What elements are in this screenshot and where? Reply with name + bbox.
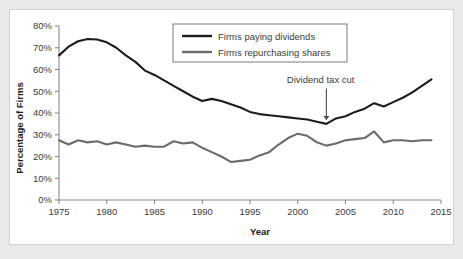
annotation-label: Dividend tax cut	[287, 74, 355, 85]
chart-figure-card: 0%10%20%30%40%50%60%70%80% 1975198019851…	[9, 9, 454, 245]
x-axis-title: Year	[250, 226, 270, 237]
x-axis-tick-label: 2010	[383, 206, 404, 217]
x-axis-tick-label: 1985	[144, 206, 165, 217]
y-axis-title: Percentage of Firms	[14, 82, 25, 173]
x-axis-tick-label: 1980	[96, 206, 117, 217]
x-axis: 197519801985199019952000200520102015	[48, 200, 451, 217]
x-axis-tick-label: 1990	[192, 206, 213, 217]
legend-label: Firms repurchasing shares	[218, 47, 331, 58]
x-axis-tick-label: 2000	[287, 206, 308, 217]
y-axis-tick-label: 80%	[33, 20, 53, 31]
x-axis-tick-label: 2015	[430, 206, 451, 217]
x-axis-tick-label: 2005	[335, 206, 356, 217]
down-arrow-icon	[323, 116, 329, 120]
screenshot-root: 0%10%20%30%40%50%60%70%80% 1975198019851…	[0, 0, 463, 259]
y-axis-tick-label: 40%	[33, 107, 53, 118]
y-axis-tick-label: 20%	[33, 151, 53, 162]
x-axis-tick-label: 1995	[239, 206, 260, 217]
y-axis-tick-label: 50%	[33, 86, 53, 97]
line-chart: 0%10%20%30%40%50%60%70%80% 1975198019851…	[10, 10, 453, 244]
series-line	[59, 131, 431, 161]
x-axis-tick-label: 1975	[48, 206, 69, 217]
y-axis: 0%10%20%30%40%50%60%70%80%	[33, 20, 59, 205]
y-axis-tick-label: 30%	[33, 129, 53, 140]
y-axis-tick-label: 70%	[33, 42, 53, 53]
chart-legend: Firms paying dividendsFirms repurchasing…	[173, 24, 347, 62]
y-axis-tick-label: 0%	[38, 194, 52, 205]
legend-label: Firms paying dividends	[218, 31, 315, 42]
y-axis-tick-label: 60%	[33, 64, 53, 75]
y-axis-tick-label: 10%	[33, 173, 53, 184]
annotation-group: Dividend tax cut	[287, 74, 355, 120]
